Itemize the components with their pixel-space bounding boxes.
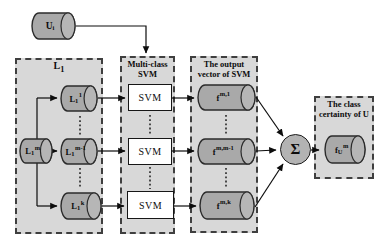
cylinder-label: L1k <box>60 192 95 220</box>
svm-box-1: SVM <box>128 84 172 111</box>
arrow-f1-to-sum <box>256 97 283 136</box>
input-cylinder-u: Ui <box>31 12 76 40</box>
cylinder-output-f-mk: fm,k <box>199 191 255 220</box>
cylinder-label: fm,1 <box>197 84 249 111</box>
arrow-f2-to-sum <box>256 150 276 151</box>
cylinder-class-certainty: fUm <box>324 135 366 164</box>
arrow-input-to-svm-panel <box>76 26 146 53</box>
cylinder-output-f-mm1: fm,m-1 <box>197 138 256 165</box>
arrow-f3-to-sum <box>255 164 283 207</box>
svm-box-3: SVM <box>127 191 174 219</box>
input-cylinder-label: Ui <box>31 12 69 40</box>
sum-node: Σ <box>280 134 311 165</box>
cylinder-output-f-m1: fm,1 <box>197 84 256 111</box>
cylinder-label: fm,m-1 <box>197 138 249 165</box>
svm-flow-diagram: L1 Multi-class SVM The output vector of … <box>0 0 390 249</box>
cylinder-l1-class1: L11 <box>60 85 98 112</box>
cylinder-label: L1m <box>19 138 46 164</box>
cylinder-label: fUm <box>324 135 359 164</box>
svm-box-2: SVM <box>128 138 172 165</box>
cylinder-label: L1m-1 <box>60 138 91 165</box>
cylinder-label: L11 <box>60 85 91 112</box>
cylinder-l1-class-k: L1k <box>60 192 102 220</box>
cylinder-l1-class-m-1: L1m-1 <box>60 138 98 165</box>
cylinder-label: fm,k <box>199 191 248 220</box>
cylinder-l1-class-m: L1m <box>19 138 53 164</box>
